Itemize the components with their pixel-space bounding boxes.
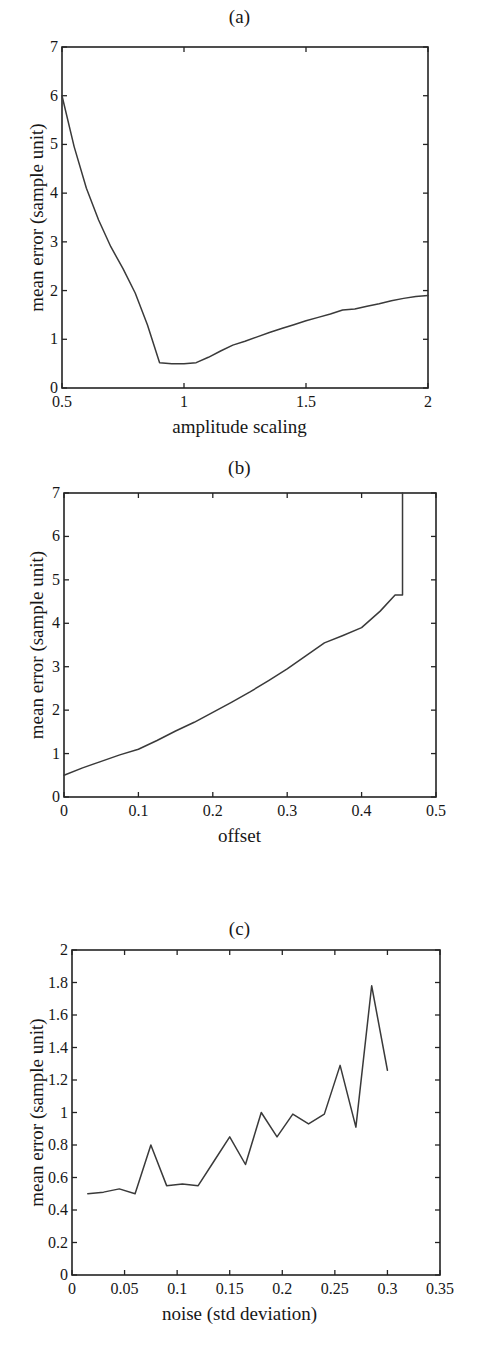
x-tick-label: 0.5 bbox=[426, 802, 446, 820]
x-tick-label: 0.4 bbox=[352, 802, 372, 820]
y-tick-label: 0 bbox=[50, 379, 58, 397]
x-tick-label: 0.2 bbox=[272, 1280, 292, 1298]
y-tick-label: 1 bbox=[60, 1104, 68, 1122]
x-tick-label: 0.3 bbox=[277, 802, 297, 820]
y-tick-label: 2 bbox=[60, 941, 68, 959]
y-tick-label: 1.4 bbox=[48, 1039, 68, 1057]
x-tick-label: 0.3 bbox=[377, 1280, 397, 1298]
x-tick-label: 0.15 bbox=[216, 1280, 244, 1298]
y-tick-label: 1.8 bbox=[48, 974, 68, 992]
y-tick-label: 0.8 bbox=[48, 1136, 68, 1154]
y-tick-label: 4 bbox=[50, 184, 58, 202]
y-tick-label: 7 bbox=[52, 484, 60, 502]
x-tick-label: 0.1 bbox=[128, 802, 148, 820]
x-tick-label: 0 bbox=[60, 802, 68, 820]
y-tick-label: 0.2 bbox=[48, 1234, 68, 1252]
y-tick-label: 6 bbox=[52, 527, 60, 545]
figure-panel-c: (c) mean error (sample unit) noise (std … bbox=[0, 900, 479, 1353]
y-tick-label: 3 bbox=[52, 658, 60, 676]
x-tick-label: 0.05 bbox=[111, 1280, 139, 1298]
y-tick-label: 2 bbox=[52, 701, 60, 719]
x-tick-label: 0.2 bbox=[203, 802, 223, 820]
x-tick-label: 2 bbox=[424, 393, 432, 411]
x-tick-label: 1 bbox=[180, 393, 188, 411]
y-tick-label: 7 bbox=[50, 38, 58, 56]
panel-a-plot bbox=[0, 0, 479, 455]
figure-panel-b: (b) mean error (sample unit) offset 00.1… bbox=[0, 455, 479, 900]
x-tick-label: 0 bbox=[68, 1280, 76, 1298]
x-tick-label: 0.35 bbox=[426, 1280, 454, 1298]
y-tick-label: 6 bbox=[50, 87, 58, 105]
x-tick-label: 0.1 bbox=[167, 1280, 187, 1298]
panel-b-plot bbox=[0, 455, 479, 900]
y-tick-label: 4 bbox=[52, 614, 60, 632]
figure-panel-a: (a) mean error (sample unit) amplitude s… bbox=[0, 0, 479, 455]
x-tick-label: 0.25 bbox=[321, 1280, 349, 1298]
x-tick-label: 1.5 bbox=[296, 393, 316, 411]
y-tick-label: 1.6 bbox=[48, 1006, 68, 1024]
y-tick-label: 3 bbox=[50, 233, 58, 251]
y-tick-label: 1.2 bbox=[48, 1071, 68, 1089]
y-tick-label: 1 bbox=[52, 745, 60, 763]
y-tick-label: 0.4 bbox=[48, 1201, 68, 1219]
y-tick-label: 0.6 bbox=[48, 1169, 68, 1187]
y-tick-label: 1 bbox=[50, 330, 58, 348]
y-tick-label: 5 bbox=[52, 571, 60, 589]
y-tick-label: 2 bbox=[50, 282, 58, 300]
y-tick-label: 0 bbox=[52, 788, 60, 806]
y-tick-label: 0 bbox=[60, 1266, 68, 1284]
y-tick-label: 5 bbox=[50, 135, 58, 153]
